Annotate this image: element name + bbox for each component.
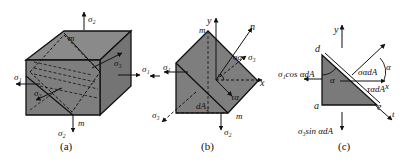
dA2-label: dA₂ (196, 101, 209, 111)
y-label-b: y (206, 15, 212, 26)
sigma3-back-label: σ₃ (114, 58, 122, 68)
m-top-label: m (68, 33, 75, 43)
panel-b: y x n σ₃ α σα τα σ₁ σ₃ σ₂ dA₂ m m σ₁ (b) (142, 15, 265, 153)
tau-alpha-dA-label: ταdA (367, 84, 385, 94)
alpha-outer-label: α (386, 62, 391, 72)
panel-a: σ₂ σ₂ σ₁ σ₃ σ₃ m m (a) (14, 12, 140, 153)
e-label: e (377, 101, 382, 112)
sigma1-right-label-a: σ₁ (142, 64, 150, 74)
sigma1-cos-label: σ₁cos αdA (278, 69, 315, 79)
caption-a: (a) (60, 140, 73, 153)
t-label-c: t (392, 109, 395, 119)
y-label-c: y (333, 24, 339, 35)
sigma2-top-label: σ₂ (88, 14, 96, 24)
sigma3-left-label-b: σ₃ (152, 110, 160, 120)
sigma3-right-label-b: σ₃ (248, 52, 256, 62)
m-top-label-b: m (199, 25, 206, 35)
stress-diagram: σ₂ σ₂ σ₁ σ₃ σ₃ m m (a) y x n σ₃ α σα τα … (0, 0, 408, 164)
m-bottom-label-b: m (236, 111, 243, 121)
sigma1-left-label: σ₁ (14, 72, 22, 82)
panel-c: y x σαdA α α t ταdA σ₁cos αdA σ₃sin αdA … (278, 24, 395, 153)
tau-alpha-label-b: τα (231, 92, 239, 102)
alpha-inner-label: α (330, 75, 335, 85)
sigma2-bottom-label: σ₂ (58, 128, 66, 138)
sigma3-front-label: σ₃ (34, 88, 42, 98)
x-label-b: x (259, 77, 265, 88)
element-b (176, 31, 258, 113)
sigma3-sin-label: σ₃sin αdA (298, 126, 334, 136)
n-label-b: n (250, 21, 255, 32)
sigma-alpha-dA-label: σαdA (358, 67, 378, 77)
alpha-label-b: α (218, 71, 222, 79)
caption-b: (b) (201, 140, 214, 153)
m-bottom-label: m (78, 118, 85, 128)
sigma1-label-b: σ₁ (163, 62, 171, 72)
d-label: d (315, 43, 321, 54)
a-label: a (314, 100, 319, 111)
sigma2-label-b: σ₂ (224, 127, 232, 137)
caption-c: (c) (338, 140, 351, 153)
alpha-arc-outer (380, 58, 386, 80)
sigma-alpha-label-b: σα (233, 52, 242, 62)
